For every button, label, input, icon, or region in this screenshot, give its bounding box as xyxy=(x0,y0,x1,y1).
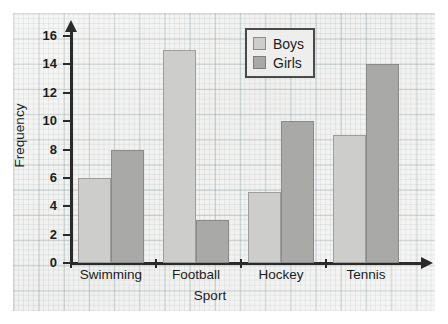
chart-legend: Boys Girls xyxy=(245,28,315,78)
legend-item-girls: Girls xyxy=(253,53,304,72)
bar-tennis-girls xyxy=(366,64,399,263)
legend-label-boys: Boys xyxy=(273,37,304,51)
x-tick-football xyxy=(155,259,157,268)
x-tick-hockey xyxy=(240,259,242,268)
x-axis-title: Sport xyxy=(150,288,270,303)
x-tick-swimming xyxy=(70,259,72,268)
legend-label-girls: Girls xyxy=(273,56,302,70)
bar-football-girls xyxy=(196,220,229,263)
legend-item-boys: Boys xyxy=(253,34,304,53)
bar-football-boys xyxy=(163,50,196,263)
boys-swatch-icon xyxy=(253,37,266,50)
bar-swimming-girls xyxy=(111,150,144,264)
x-axis-label-swimming: Swimming xyxy=(71,268,151,282)
x-axis-label-football: Football xyxy=(156,268,236,282)
bar-tennis-boys xyxy=(333,135,366,263)
x-tick-tennis xyxy=(325,259,327,268)
bar-hockey-boys xyxy=(248,192,281,263)
bar-hockey-girls xyxy=(281,121,314,263)
girls-swatch-icon xyxy=(253,56,266,69)
x-axis-label-tennis: Tennis xyxy=(326,268,406,282)
x-axis-label-hockey: Hockey xyxy=(241,268,321,282)
bar-chart: Frequency Sport 1614121086420 SwimmingFo… xyxy=(0,0,448,324)
bar-series-group xyxy=(0,0,448,263)
bar-swimming-boys xyxy=(78,178,111,263)
